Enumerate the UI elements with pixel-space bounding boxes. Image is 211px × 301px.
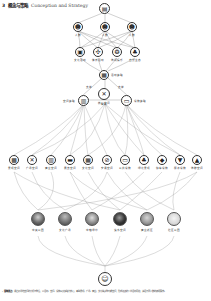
site-label: 中轴绿带 [86, 228, 98, 232]
brain-icon: ❂ [112, 47, 122, 57]
screen-icon: ▭ [121, 95, 132, 106]
map-icon: ▩ [9, 155, 19, 165]
footer-text: 通过对场地空间的分析与整合，以活动、空间、设施三大策略为核心，串联景观、广场、商… [14, 290, 166, 293]
function-label: 展览空间 [64, 166, 76, 170]
site-label: 社区公园 [168, 228, 180, 232]
connector-lines [0, 0, 211, 301]
function-label: 绿化景观 [138, 166, 150, 170]
footer-key: · 策略要点： [2, 290, 14, 293]
function-label: 商业空间 [45, 166, 57, 170]
people-icon: ☺ [98, 272, 112, 286]
site-label: 滨水空间 [114, 228, 126, 232]
tier2-label: 自然生态 [129, 58, 141, 62]
leaf-icon: ♣ [139, 155, 149, 165]
tier1-label: 人群 [75, 33, 81, 37]
window-icon: ▬ [65, 155, 75, 165]
hub-label: 活动策略 [111, 73, 123, 77]
site-photo [58, 212, 72, 226]
footer-note: · 策略要点：通过对场地空间的分析与整合，以活动、空间、设施三大策略为核心，串联… [2, 290, 209, 293]
tier2-label: 文化活动 [74, 58, 86, 62]
tent-icon: ▲ [192, 155, 202, 165]
building-icon: ▣ [75, 47, 85, 57]
person-icon: ☻ [100, 22, 110, 32]
site-label: 文化广场 [59, 228, 71, 232]
function-label: 停车设施 [156, 166, 168, 170]
site-photo [167, 212, 181, 226]
function-label: 景观空间 [8, 166, 20, 170]
function-label: 文化空间 [82, 166, 94, 170]
function-label: 公共设施 [119, 166, 131, 170]
tier1-label: 人群 [129, 33, 135, 37]
center-label: 核心空间 [98, 101, 110, 105]
site-photo [85, 212, 99, 226]
person-icon: ☻ [73, 22, 83, 32]
tier2-label: 休闲娱乐 [111, 58, 123, 62]
cart-icon: ▼ [175, 155, 185, 165]
site-photo [113, 212, 127, 226]
market-icon: ▥ [46, 155, 56, 165]
function-label: 交通空间 [101, 166, 113, 170]
site-label: 中央公园 [32, 228, 44, 232]
function-label: 服务设施 [174, 166, 186, 170]
grid-icon: ▥ [78, 95, 89, 106]
bus-icon: ▭ [120, 155, 130, 165]
site-photo [140, 212, 154, 226]
left-label: 空间策略 [63, 99, 75, 103]
no-icon: ⊘ [102, 155, 112, 165]
building-icon: ▤ [99, 3, 110, 14]
person-icon: ☻ [127, 22, 137, 32]
tier2-label: 体育活动 [92, 58, 104, 62]
car-icon: ◆ [157, 155, 167, 165]
site-photo [31, 212, 45, 226]
site-label: 商业街区 [141, 228, 153, 232]
edge-label: 支撑 [118, 85, 124, 89]
function-label: 广场空间 [26, 166, 38, 170]
tools-icon: ✕ [98, 88, 110, 100]
right-label: 设施策略 [134, 99, 146, 103]
tree-icon: ♣ [130, 47, 140, 57]
tier1-label: 人群 [102, 33, 108, 37]
board-icon: ▦ [83, 155, 93, 165]
sport-icon: ✣ [93, 47, 103, 57]
calendar-icon: ▦ [99, 70, 109, 80]
cross-icon: ✕ [27, 155, 37, 165]
edge-label: 支撑 [86, 85, 92, 89]
function-label: 休憩空间 [191, 166, 203, 170]
